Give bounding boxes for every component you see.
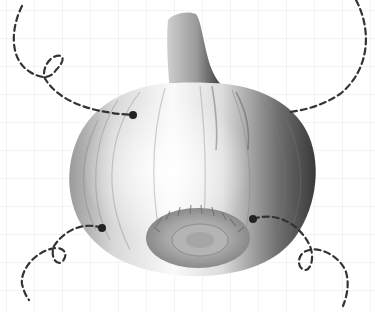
callout-dot-top-left [129, 111, 137, 119]
garlic-callout-diagram [0, 0, 375, 312]
callout-lines [0, 0, 375, 312]
callout-dot-bottom-right [249, 215, 257, 223]
callout-line-top-right [290, 0, 366, 112]
callout-line-bottom-right [253, 217, 348, 306]
callout-line-top-left [14, 6, 133, 115]
callout-line-bottom-left [22, 226, 102, 300]
callout-dot-bottom-left [98, 224, 106, 232]
